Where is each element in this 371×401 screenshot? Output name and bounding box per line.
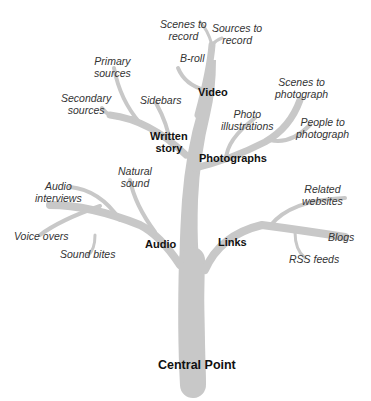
label-sources-to-record: Sources to record [212,22,262,46]
label-natural-sound: Natural sound [118,165,152,189]
label-b-roll: B-roll [180,52,205,64]
label-audio-interviews: Audio interviews [35,180,82,204]
label-people-to-photograph: People to photograph [296,116,349,140]
label-links: Links [218,236,247,248]
label-related-websites: Related websites [302,183,343,207]
label-scenes-to-photograph: Scenes to photograph [275,76,328,100]
label-photographs: Photographs [199,152,267,164]
label-primary-sources: Primary sources [94,55,131,79]
label-sidebars: Sidebars [140,94,181,106]
label-written-story: Written story [150,130,188,154]
label-video: Video [198,86,228,98]
label-central-point: Central Point [158,359,236,371]
label-sound-bites: Sound bites [60,248,115,260]
label-scenes-to-record: Scenes to record [160,18,207,42]
label-blogs: Blogs [328,231,354,243]
label-photo-illustrations: Photo illustrations [221,108,274,132]
label-audio: Audio [145,238,176,250]
label-secondary-sources: Secondary sources [61,92,111,116]
label-rss-feeds: RSS feeds [289,253,339,265]
label-voice-overs: Voice overs [14,230,68,242]
